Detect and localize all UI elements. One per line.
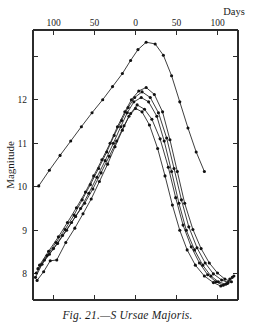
data-point-marker xyxy=(208,261,211,264)
y-axis-tick-label: 10 xyxy=(18,182,28,192)
data-point-marker xyxy=(90,197,93,200)
data-point-marker xyxy=(73,227,76,230)
data-point-marker xyxy=(112,142,115,145)
data-point-marker xyxy=(178,100,181,103)
data-point-marker xyxy=(193,248,196,251)
data-point-marker xyxy=(182,224,185,227)
data-point-marker xyxy=(170,170,173,173)
data-point-marker xyxy=(57,235,60,238)
data-point-marker xyxy=(79,207,82,210)
data-point-marker xyxy=(109,142,112,145)
data-point-marker xyxy=(90,111,93,114)
data-point-marker xyxy=(80,125,83,128)
data-point-marker xyxy=(165,136,168,139)
data-point-marker xyxy=(106,163,109,166)
x-axis-tick-label: 100 xyxy=(46,18,61,28)
data-point-marker xyxy=(212,272,215,275)
data-point-marker xyxy=(81,212,84,215)
data-point-marker xyxy=(167,166,170,169)
data-point-marker xyxy=(64,241,67,244)
x-axis-title: Days xyxy=(223,6,245,17)
data-point-marker xyxy=(147,100,150,103)
data-point-marker xyxy=(37,184,40,187)
data-point-marker xyxy=(170,74,173,77)
x-axis-tick-label: 50 xyxy=(172,18,182,28)
data-point-marker xyxy=(194,264,197,267)
data-point-marker xyxy=(104,159,107,162)
x-axis-tick-label: 100 xyxy=(210,18,225,28)
light-curve-line xyxy=(39,42,205,186)
data-point-marker xyxy=(227,281,230,284)
data-point-marker xyxy=(195,150,198,153)
data-point-marker xyxy=(230,280,233,283)
data-point-marker xyxy=(141,110,144,113)
data-point-marker xyxy=(232,275,235,278)
y-axis-title: Magnitude xyxy=(4,141,16,189)
data-point-marker xyxy=(163,140,166,143)
y-axis-tick-label: 12 xyxy=(18,95,28,105)
figure-caption: Fig. 21.—S Ursae Majoris. xyxy=(0,309,255,321)
y-axis-tick-label: 8 xyxy=(22,269,27,279)
data-point-marker xyxy=(190,245,193,248)
data-point-marker xyxy=(141,90,144,93)
data-point-marker xyxy=(180,198,183,201)
data-point-marker xyxy=(172,167,175,170)
data-point-marker xyxy=(36,267,39,270)
figure-container: 1005005010089101112 DaysMagnitude Fig. 2… xyxy=(0,0,255,332)
data-point-marker xyxy=(161,110,164,113)
data-point-marker xyxy=(35,271,38,274)
data-point-marker xyxy=(115,140,118,143)
data-point-marker xyxy=(183,202,186,205)
data-point-marker xyxy=(201,264,204,267)
data-point-marker xyxy=(186,248,189,251)
data-point-marker xyxy=(66,221,69,224)
data-point-marker xyxy=(143,108,146,111)
data-point-marker xyxy=(140,96,143,99)
data-point-marker xyxy=(136,48,139,51)
data-point-marker xyxy=(185,229,188,232)
data-point-marker xyxy=(42,270,45,273)
data-point-marker xyxy=(122,124,125,127)
data-point-marker xyxy=(34,276,37,279)
data-point-marker xyxy=(204,261,207,264)
data-point-marker xyxy=(203,275,206,278)
data-point-marker xyxy=(145,41,148,44)
data-point-marker xyxy=(155,115,158,118)
data-point-marker xyxy=(195,246,198,249)
data-point-marker xyxy=(145,86,148,89)
data-point-marker xyxy=(136,103,139,106)
data-point-marker xyxy=(123,110,126,113)
data-point-marker xyxy=(178,229,181,232)
y-axis-tick-label: 11 xyxy=(18,139,27,149)
y-axis-tick-label: 9 xyxy=(22,226,27,236)
data-point-marker xyxy=(100,158,103,161)
data-point-marker xyxy=(217,280,220,283)
data-point-marker xyxy=(200,247,203,250)
data-point-marker xyxy=(129,59,132,62)
data-point-marker xyxy=(36,279,39,282)
data-point-marker xyxy=(220,278,223,281)
data-point-marker xyxy=(209,275,212,278)
data-point-marker xyxy=(87,192,90,195)
data-point-marker xyxy=(130,98,133,101)
data-point-marker xyxy=(187,225,190,228)
data-point-marker xyxy=(101,98,104,101)
data-point-marker xyxy=(129,112,132,115)
data-point-marker xyxy=(137,89,140,92)
data-point-marker xyxy=(171,204,174,207)
data-point-marker xyxy=(154,42,157,45)
data-point-marker xyxy=(156,147,159,150)
data-point-marker xyxy=(95,176,98,179)
data-point-marker xyxy=(98,180,101,183)
data-point-marker xyxy=(223,278,226,281)
light-curve-line xyxy=(36,98,232,285)
data-point-marker xyxy=(47,250,50,253)
data-point-marker xyxy=(163,174,166,177)
data-point-marker xyxy=(159,137,162,140)
data-point-marker xyxy=(176,170,179,173)
x-axis-tick-label: 50 xyxy=(90,18,100,28)
data-point-marker xyxy=(92,174,95,177)
data-point-marker xyxy=(84,190,87,193)
data-point-marker xyxy=(75,206,78,209)
data-point-marker xyxy=(55,258,58,261)
